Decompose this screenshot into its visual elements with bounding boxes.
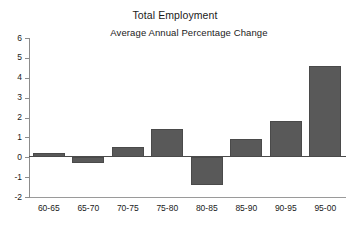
x-axis-tick-label: 90-95 bbox=[266, 204, 306, 213]
bar bbox=[270, 121, 302, 157]
bar bbox=[72, 157, 104, 163]
bar bbox=[309, 66, 341, 157]
bar bbox=[151, 129, 183, 157]
y-axis-tick-label: 3 bbox=[2, 93, 22, 102]
y-axis-tick-label: -2 bbox=[2, 193, 22, 202]
y-axis-tick-label: 0 bbox=[2, 153, 22, 162]
x-axis-tick-label: 85-90 bbox=[227, 204, 267, 213]
x-axis-tick-label: 60-65 bbox=[29, 204, 69, 213]
y-axis-tick-label: 1 bbox=[2, 133, 22, 142]
x-axis-tick-label: 95-00 bbox=[306, 204, 346, 213]
y-axis-tick-label: 2 bbox=[2, 113, 22, 122]
y-axis-tick-label: 5 bbox=[2, 53, 22, 62]
y-axis-tick bbox=[25, 197, 30, 198]
bar bbox=[230, 139, 262, 157]
x-axis-tick-label: 65-70 bbox=[69, 204, 109, 213]
y-axis-tick-label: 4 bbox=[2, 73, 22, 82]
x-axis-line bbox=[29, 197, 346, 198]
bar bbox=[191, 157, 223, 185]
y-axis-tick-label: -1 bbox=[2, 173, 22, 182]
zero-baseline bbox=[29, 156, 346, 157]
plot-area bbox=[29, 38, 345, 197]
bar-chart: Total Employment Average Annual Percenta… bbox=[0, 0, 350, 236]
y-axis-tick-label: 6 bbox=[2, 34, 22, 43]
x-axis-tick-label: 80-85 bbox=[187, 204, 227, 213]
x-axis-tick-label: 75-80 bbox=[148, 204, 188, 213]
chart-title: Total Employment bbox=[0, 9, 350, 21]
x-axis-tick-label: 70-75 bbox=[108, 204, 148, 213]
chart-subtitle: Average Annual Percentage Change bbox=[28, 27, 350, 38]
